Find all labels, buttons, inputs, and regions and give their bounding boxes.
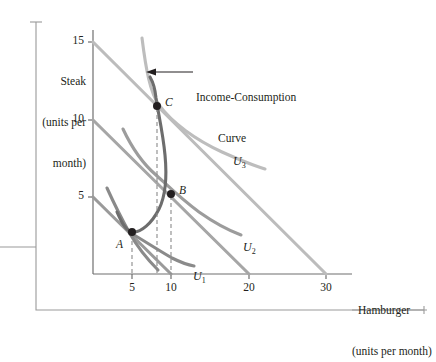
curve-label-u1-base: U (193, 269, 202, 283)
curve-label-u1: U1 (181, 255, 206, 300)
curve-label-u2-sub: 2 (252, 248, 256, 257)
y-tick-label-10: 10 (58, 112, 84, 126)
x-tick-label-30: 30 (314, 281, 338, 295)
annotation-line1: Income-Consumption (196, 91, 344, 105)
curve-label-u2-base: U (243, 240, 252, 254)
y-axis-title-line3: month) (10, 157, 86, 171)
point-label-c: C (165, 96, 173, 110)
point-label-b: B (179, 184, 186, 198)
point-label-a: A (116, 238, 123, 252)
y-tick-label-5: 5 (58, 189, 84, 203)
y-tick-label-15: 15 (58, 34, 84, 48)
x-tick-label-20: 20 (237, 281, 261, 295)
curve-label-u1-sub: 1 (202, 277, 206, 286)
annotation-line2: Curve (218, 132, 344, 146)
x-axis-title-line1: Hamburger (358, 304, 436, 318)
x-tick-label-10: 10 (159, 281, 183, 295)
income-consumption-annotation: Income-Consumption Curve (196, 64, 344, 173)
left-arrow-icon (146, 68, 156, 75)
x-axis-title: Hamburger (units per month) (358, 277, 436, 362)
x-tick-label-5: 5 (120, 281, 144, 295)
x-axis-title-line2: (units per month) (352, 345, 436, 359)
y-axis-title-line1: Steak (10, 75, 86, 89)
curve-label-u2: U2 (231, 226, 256, 271)
